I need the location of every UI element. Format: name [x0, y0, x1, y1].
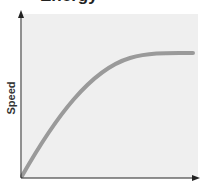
y-axis-arrow-icon	[18, 10, 24, 18]
x-axis-arrow-icon	[192, 175, 200, 181]
chart-svg	[0, 0, 201, 187]
speed-curve	[22, 53, 193, 176]
